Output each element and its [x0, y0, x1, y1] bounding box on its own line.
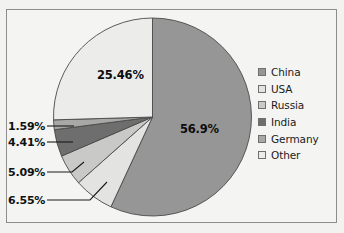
- callout-label-russia: 5.09%: [8, 166, 45, 179]
- legend-swatch-icon: [258, 85, 266, 93]
- pie-chart-figure: 25.46% 56.9% 1.59% 4.41% 5.09% 6.55% Chi…: [0, 0, 344, 233]
- legend-item-label: USA: [271, 83, 292, 95]
- slice-label-china: 56.9%: [180, 122, 219, 136]
- legend-item-india[interactable]: India: [258, 114, 336, 131]
- legend-item-russia[interactable]: Russia: [258, 97, 336, 114]
- legend-item-label: India: [271, 116, 296, 128]
- legend-swatch-icon: [258, 135, 266, 143]
- slice-label-other: 25.46%: [97, 68, 144, 82]
- legend-item-label: China: [271, 66, 301, 78]
- callout-label-india: 4.41%: [8, 136, 45, 149]
- legend-item-usa[interactable]: USA: [258, 81, 336, 98]
- legend-item-label: Russia: [271, 99, 304, 111]
- legend-item-label: Other: [271, 149, 300, 161]
- pie-slices: [53, 18, 251, 216]
- legend-swatch-icon: [258, 151, 266, 159]
- legend-item-other[interactable]: Other: [258, 147, 336, 164]
- callout-label-usa: 6.55%: [8, 194, 45, 207]
- legend-item-germany[interactable]: Germany: [258, 130, 336, 147]
- legend-item-china[interactable]: China: [258, 64, 336, 81]
- legend-swatch-icon: [258, 118, 266, 126]
- legend-swatch-icon: [258, 68, 266, 76]
- legend-item-label: Germany: [271, 133, 319, 145]
- legend-swatch-icon: [258, 101, 266, 109]
- callout-label-germany: 1.59%: [8, 120, 45, 133]
- chart-legend: ChinaUSARussiaIndiaGermanyOther: [258, 64, 336, 164]
